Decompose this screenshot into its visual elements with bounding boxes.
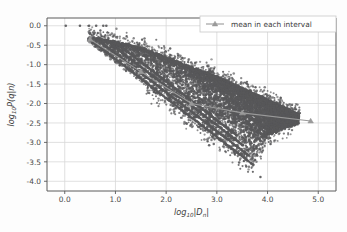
scatter-point — [210, 67, 212, 69]
scatter-point — [243, 104, 246, 107]
scatter-point — [185, 123, 187, 125]
scatter-point — [153, 57, 155, 59]
scatter-point — [171, 54, 173, 56]
scatter-point — [262, 143, 264, 145]
scatter-outlier-point — [238, 161, 241, 164]
scatter-point — [173, 112, 175, 114]
scatter-point — [247, 168, 249, 170]
scatter-point — [231, 77, 233, 79]
scatter-point — [155, 95, 157, 97]
scatter-point — [259, 119, 261, 121]
scatter-point — [153, 60, 155, 62]
scatter-point — [185, 128, 187, 130]
scatter-outlier-point — [245, 165, 248, 168]
scatter-point — [245, 106, 247, 108]
scatter-point — [102, 31, 104, 33]
scatter-point — [236, 134, 238, 136]
x-tick-label: 3.0 — [211, 195, 223, 204]
scatter-point — [257, 103, 259, 105]
scatter-point — [266, 136, 268, 138]
scatter-point — [127, 40, 129, 42]
scatter-point — [249, 99, 251, 101]
scatter-point — [157, 97, 159, 99]
scatter-point — [213, 88, 215, 90]
scatter-point — [252, 171, 254, 173]
scatter-point — [239, 86, 241, 88]
scatter-point — [150, 57, 153, 60]
scatter-point — [237, 128, 239, 130]
scatter-point — [259, 107, 261, 109]
scatter-point — [209, 73, 211, 75]
scatter-point — [116, 37, 118, 39]
scatter-point — [213, 68, 215, 70]
y-tick-label: -1.5 — [27, 80, 42, 89]
scatter-point — [273, 140, 275, 142]
scatter-plot[interactable]: 0.01.02.03.04.05.00.0-0.5-1.0-1.5-2.0-2.… — [0, 0, 347, 232]
scatter-point — [178, 78, 180, 80]
scatter-point — [198, 81, 201, 84]
scatter-point — [192, 89, 194, 91]
scatter-point — [255, 121, 257, 123]
legend[interactable]: mean in each interval — [200, 16, 336, 32]
scatter-point — [191, 78, 193, 80]
scatter-point — [273, 105, 275, 107]
scatter-point — [245, 127, 247, 129]
scatter-point — [157, 45, 159, 47]
scatter-point — [202, 70, 204, 72]
scatter-point — [253, 130, 256, 133]
scatter-point — [220, 92, 222, 94]
scatter-point — [182, 115, 184, 117]
scatter-point — [187, 77, 189, 79]
scatter-point — [295, 108, 297, 110]
scatter-point — [259, 129, 262, 132]
scatter-point — [222, 86, 225, 89]
scatter-point — [233, 97, 235, 99]
scatter-point — [181, 57, 183, 59]
scatter-point — [107, 34, 110, 37]
scatter-point — [260, 143, 262, 145]
scatter-point — [223, 146, 225, 148]
scatter-point — [159, 67, 161, 69]
scatter-point — [235, 125, 237, 127]
scatter-point — [187, 71, 189, 73]
scatter-point — [228, 104, 231, 107]
scatter-point — [292, 116, 294, 118]
scatter-point — [162, 53, 164, 55]
scatter-point — [276, 96, 278, 98]
scatter-point — [216, 113, 218, 115]
scatter-point — [287, 123, 289, 125]
scatter-point — [243, 130, 245, 132]
scatter-point — [238, 97, 240, 99]
scatter-point — [249, 90, 251, 92]
scatter-point — [157, 70, 159, 72]
scatter-point — [144, 41, 146, 43]
scatter-top-point — [95, 24, 98, 27]
scatter-point — [250, 147, 252, 149]
scatter-point — [206, 139, 208, 141]
scatter-point — [253, 144, 255, 146]
scatter-point — [270, 104, 272, 106]
scatter-point — [201, 139, 203, 141]
scatter-point — [184, 109, 186, 111]
scatter-point — [290, 125, 293, 128]
scatter-point — [205, 84, 207, 86]
scatter-point — [198, 97, 201, 100]
scatter-point — [247, 171, 249, 173]
scatter-point — [192, 72, 194, 74]
scatter-point — [188, 119, 190, 121]
scatter-point — [245, 136, 247, 138]
scatter-point — [209, 69, 211, 71]
scatter-point — [136, 50, 138, 52]
scatter-point — [202, 81, 205, 84]
scatter-point — [239, 82, 242, 85]
scatter-point — [223, 116, 225, 118]
scatter-point — [238, 104, 240, 106]
x-axis-title: log10|Dn| — [174, 207, 209, 218]
scatter-point — [238, 164, 240, 166]
scatter-point — [166, 69, 168, 71]
scatter-point — [242, 97, 244, 99]
scatter-point — [290, 133, 292, 135]
scatter-point — [195, 86, 197, 88]
scatter-point — [266, 123, 268, 125]
scatter-point — [285, 109, 287, 111]
